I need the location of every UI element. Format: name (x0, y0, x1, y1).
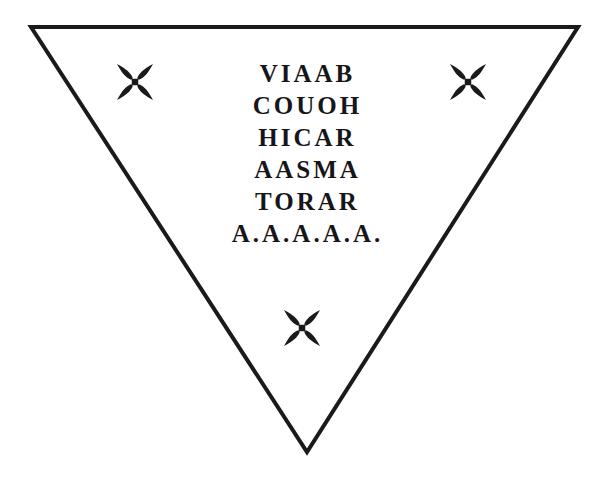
maltese-cross-icon (284, 310, 320, 346)
talisman-figure-canvas: VIAAB COUOH HICAR AASMA TORAR A.A.A.A.A. (0, 0, 609, 487)
inverted-triangle-outline (31, 27, 578, 452)
maltese-cross-icon (450, 64, 486, 100)
talisman-drawing (0, 0, 609, 487)
maltese-cross-icon (117, 64, 153, 100)
